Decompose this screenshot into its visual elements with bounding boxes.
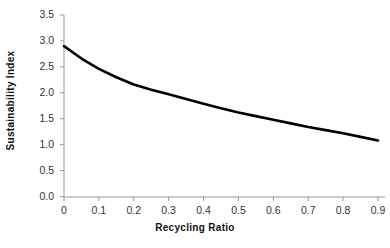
chart-container: Sustainability Index 0.00.51.01.52.02.53… [0,0,390,248]
x-tick-label: 0.4 [189,204,219,216]
x-axis-title-text: Recycling Ratio [155,222,235,233]
x-tick-label: 0.9 [363,204,390,216]
y-tick-label: 3.5 [26,8,54,20]
y-tick-label: 0.0 [26,190,54,202]
y-tick-label: 3.0 [26,34,54,46]
x-tick-label: 0.3 [154,204,184,216]
x-tick-label: 0.7 [293,204,323,216]
x-tick-label: 0.8 [328,204,358,216]
x-tick-label: 0.5 [223,204,253,216]
y-tick-label: 0.5 [26,164,54,176]
y-tick-label: 2.5 [26,60,54,72]
x-axis-ticks [64,197,378,201]
y-tick-label: 1.5 [26,112,54,124]
x-tick-label: 0.6 [258,204,288,216]
y-tick-label: 2.0 [26,86,54,98]
y-tick-label: 1.0 [26,138,54,150]
x-tick-label: 0.2 [119,204,149,216]
data-series-line [64,46,378,140]
x-axis-title: Recycling Ratio [0,222,390,233]
y-axis-ticks [60,15,64,197]
x-tick-label: 0.1 [84,204,114,216]
x-tick-label: 0 [49,204,79,216]
